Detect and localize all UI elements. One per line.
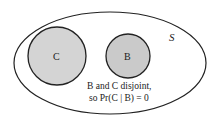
caption-line-2: so Pr(C | B) = 0	[89, 93, 149, 104]
set-b-label: B	[124, 51, 131, 62]
sample-space-label: S	[169, 31, 175, 43]
venn-diagram: S C B B and C disjoint, so Pr(C | B) = 0	[0, 0, 213, 122]
caption-line-1: B and C disjoint,	[87, 81, 151, 91]
set-c-label: C	[53, 51, 60, 62]
